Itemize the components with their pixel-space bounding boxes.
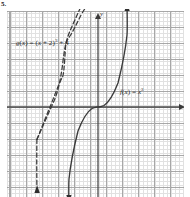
- g-plus2: + 2): [41, 39, 55, 47]
- curve-f: [69, 11, 127, 197]
- curve-g-arrow-down-icon: [34, 185, 39, 193]
- coordinate-plane: y: [7, 9, 184, 197]
- function-label-f: f(x) = x3: [120, 88, 144, 96]
- curve-f-arrow-down-icon: [66, 195, 71, 197]
- figure-canvas: 5. y g(x) = (x + 2): [0, 0, 190, 197]
- g-tail: + 4: [58, 39, 69, 47]
- function-label-g: g(x) = (x + 2)3 + 4: [16, 39, 69, 47]
- curve-f-arrow-up-icon: [125, 9, 130, 11]
- y-axis-label: y: [100, 10, 103, 18]
- g-eq: ) = (: [25, 39, 38, 47]
- function-curves: [7, 9, 184, 197]
- f-eq: ) =: [128, 88, 138, 96]
- problem-number: 5.: [1, 0, 6, 9]
- f-exponent: 3: [141, 87, 144, 92]
